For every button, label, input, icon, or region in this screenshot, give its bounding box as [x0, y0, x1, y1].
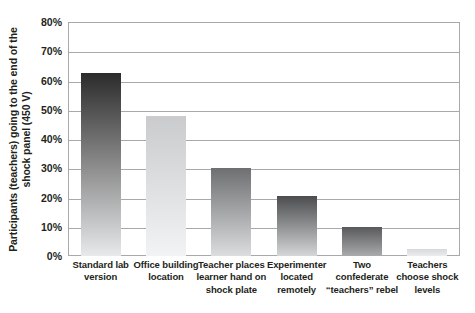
x-label-1: Office building location: [129, 259, 202, 284]
x-label-2: Teacher places learner hand on shock pla…: [195, 259, 268, 296]
y-tick-0: 0%: [18, 251, 62, 262]
bar-experimenter-located-remotely[interactable]: [277, 196, 317, 256]
y-tick-60: 60%: [18, 75, 62, 86]
y-tick-80: 80%: [18, 17, 62, 28]
bar-teacher-places-learner-hand[interactable]: [211, 168, 251, 256]
x-axis-tick-labels: Standard lab version Office building loc…: [68, 259, 460, 313]
y-tick-30: 30%: [18, 163, 62, 174]
y-tick-20: 20%: [18, 192, 62, 203]
y-tick-50: 50%: [18, 105, 62, 116]
bars-container: [68, 22, 460, 256]
x-label-0: Standard lab version: [64, 259, 137, 284]
x-label-4: Two confederate “teachers” rebel: [325, 259, 398, 296]
x-label-3: Experimenter located remotely: [260, 259, 333, 296]
bar-teachers-choose-shock-levels[interactable]: [407, 249, 447, 256]
y-tick-40: 40%: [18, 134, 62, 145]
bar-standard-lab-version[interactable]: [81, 73, 121, 256]
bar-chart: Participants (teachers) going to the end…: [0, 0, 475, 313]
bar-two-confederate-teachers-rebel[interactable]: [342, 227, 382, 256]
bar-office-building-location[interactable]: [146, 116, 186, 256]
x-label-5: Teachers choose shock levels: [391, 259, 464, 296]
y-tick-10: 10%: [18, 222, 62, 233]
y-tick-70: 70%: [18, 46, 62, 57]
y-axis-title: Participants (teachers) going to the end…: [0, 17, 40, 262]
